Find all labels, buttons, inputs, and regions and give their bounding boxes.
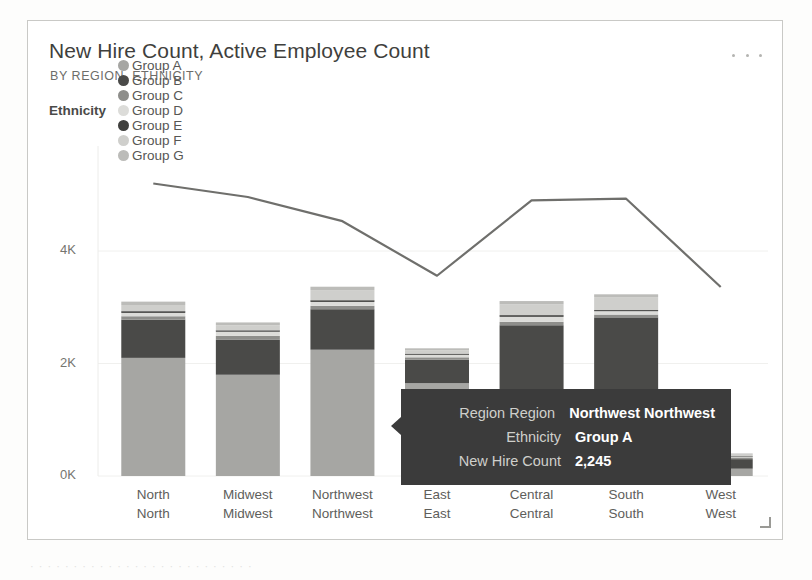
tooltip-key: New Hire Count — [401, 453, 575, 469]
bar-segment[interactable] — [121, 316, 185, 319]
bar-segment[interactable] — [500, 315, 564, 317]
bar-segment[interactable] — [594, 297, 658, 310]
bar-segment[interactable] — [594, 311, 658, 314]
bar-segment[interactable] — [310, 300, 374, 302]
bar-segment[interactable] — [216, 332, 280, 336]
bar-segment[interactable] — [405, 354, 469, 355]
bar-segment[interactable] — [216, 325, 280, 330]
bar-segment[interactable] — [216, 375, 280, 476]
bar-segment[interactable] — [500, 301, 564, 304]
bar-segment[interactable] — [594, 294, 658, 297]
tooltip-value: Northwest Northwest — [569, 405, 715, 421]
visual-card[interactable]: New Hire Count, Active Employee Count BY… — [27, 20, 783, 540]
resize-handle-bar — [760, 526, 771, 528]
y-axis-tick-label: 0K — [60, 467, 76, 482]
bar-segment[interactable] — [121, 311, 185, 313]
bar-segment[interactable] — [310, 309, 374, 350]
bar-segment[interactable] — [594, 310, 658, 311]
tooltip-value: Group A — [575, 429, 632, 445]
bar-segment[interactable] — [310, 350, 374, 476]
bar-segment[interactable] — [500, 322, 564, 325]
bar-segment[interactable] — [405, 357, 469, 359]
y-axis-tick-label: 2K — [60, 355, 76, 370]
tooltip-row: EthnicityGroup A — [401, 429, 715, 445]
x-axis-tick-label: CentralCentral — [484, 485, 579, 523]
tooltip-key: Region Region — [401, 405, 569, 421]
tooltip-row: Region RegionNorthwest Northwest — [401, 405, 715, 421]
bar-segment[interactable] — [216, 340, 280, 375]
bar-segment[interactable] — [121, 302, 185, 305]
tooltip-key: Ethnicity — [401, 429, 575, 445]
x-axis-tick-label: NorthwestNorthwest — [295, 485, 390, 523]
tooltip-value: 2,245 — [575, 453, 611, 469]
chart-tooltip: Region RegionNorthwest NorthwestEthnicit… — [401, 389, 731, 485]
bar-segment[interactable] — [121, 305, 185, 311]
tooltip-row: New Hire Count2,245 — [401, 453, 715, 469]
bar-segment[interactable] — [216, 322, 280, 325]
bar-segment[interactable] — [310, 287, 374, 290]
bar-segment[interactable] — [216, 330, 280, 331]
x-axis-tick-label: SouthSouth — [579, 485, 674, 523]
bar-segment[interactable] — [500, 304, 564, 315]
y-axis-tick-label: 4K — [60, 242, 76, 257]
x-axis-tick-label: EastEast — [390, 485, 485, 523]
bar-segment[interactable] — [121, 358, 185, 476]
bar-segment[interactable] — [121, 313, 185, 316]
bar-segment[interactable] — [405, 348, 469, 350]
x-axis-tick-label: NorthNorth — [106, 485, 201, 523]
bar-segment[interactable] — [405, 355, 469, 358]
bar-segment[interactable] — [121, 320, 185, 358]
bar-segment[interactable] — [310, 290, 374, 300]
bar-segment[interactable] — [216, 336, 280, 340]
bar-segment[interactable] — [310, 302, 374, 306]
x-axis-tick-label: MidwestMidwest — [201, 485, 296, 523]
x-axis-tick-label: WestWest — [673, 485, 768, 523]
bar-segment[interactable] — [500, 325, 564, 391]
bar-segment[interactable] — [310, 306, 374, 309]
page-artifact-text: · · · · · · · · · · · · · · · · · · · · … — [30, 560, 790, 572]
tooltip-rows: Region RegionNorthwest NorthwestEthnicit… — [401, 405, 715, 469]
bar-segment[interactable] — [405, 350, 469, 353]
bar-segment[interactable] — [594, 315, 658, 318]
resize-handle-icon[interactable] — [760, 517, 771, 528]
bar-segment[interactable] — [500, 317, 564, 322]
bar-segment[interactable] — [405, 360, 469, 384]
line-series[interactable] — [153, 184, 720, 288]
